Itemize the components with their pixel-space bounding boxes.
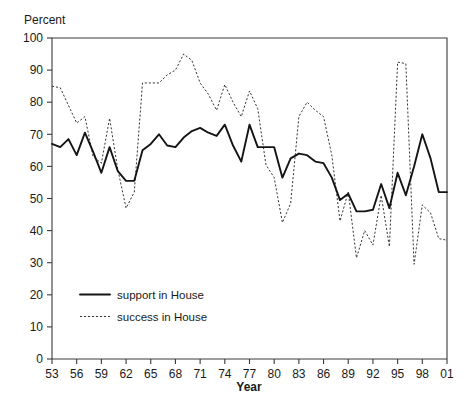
x-tick-label: 65 [144,367,158,381]
y-tick-label: 20 [30,288,44,302]
series-group [52,54,447,264]
chart-figure: Percent 0102030405060708090100 535659626… [0,0,468,416]
x-tick-label: 86 [317,367,331,381]
legend-label-success: success in House [117,311,207,323]
y-tick-label: 0 [36,352,43,366]
x-tick-label: 92 [366,367,380,381]
x-tick-label: 77 [243,367,257,381]
x-tick-label: 74 [218,367,232,381]
y-axis-ticks: 0102030405060708090100 [23,31,52,366]
chart-legend: support in House success in House [80,289,207,323]
legend-label-support: support in House [117,289,204,301]
x-tick-label: 71 [193,367,207,381]
series-success-in-house [52,54,447,264]
x-tick-label: 53 [45,367,59,381]
plot-frame [52,38,447,359]
x-tick-label: 68 [169,367,183,381]
x-tick-label: 98 [416,367,430,381]
x-tick-label: 80 [268,367,282,381]
x-axis-title: Year [236,380,262,394]
x-tick-label: 59 [95,367,109,381]
y-tick-label: 30 [30,256,44,270]
y-tick-label: 80 [30,95,44,109]
line-chart: Percent 0102030405060708090100 535659626… [0,0,468,416]
x-tick-label: 89 [342,367,356,381]
x-axis-ticks: 5356596265687174778083868992959801 [45,359,454,381]
y-tick-label: 70 [30,128,44,142]
x-tick-label: 56 [70,367,84,381]
y-axis-title: Percent [24,13,66,27]
y-tick-label: 40 [30,224,44,238]
y-tick-label: 90 [30,63,44,77]
series-support-in-house [52,125,447,212]
y-tick-label: 50 [30,192,44,206]
x-tick-label: 01 [440,367,454,381]
y-tick-label: 60 [30,160,44,174]
y-tick-label: 100 [23,31,43,45]
y-tick-label: 10 [30,320,44,334]
x-tick-label: 95 [391,367,405,381]
x-tick-label: 62 [119,367,133,381]
x-tick-label: 83 [292,367,306,381]
